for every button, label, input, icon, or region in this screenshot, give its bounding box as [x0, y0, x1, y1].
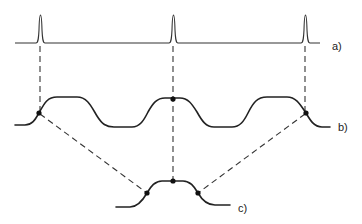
sample-dot-b1	[36, 110, 41, 115]
label-c: c)	[238, 203, 247, 214]
sampling-diagram	[0, 0, 362, 224]
dashed-diagonal-right	[198, 114, 305, 193]
dashed-diagonal-left	[40, 114, 147, 193]
sample-dot-c3	[195, 190, 200, 195]
sample-dot-b3	[303, 110, 308, 115]
sample-dot-c1	[144, 190, 149, 195]
sample-dot-c2	[170, 178, 175, 183]
label-a: a)	[332, 41, 342, 52]
sample-dot-b2	[170, 96, 175, 101]
pulse-train-a	[15, 15, 320, 43]
label-b: b)	[338, 122, 348, 133]
waveform-c	[116, 181, 230, 207]
